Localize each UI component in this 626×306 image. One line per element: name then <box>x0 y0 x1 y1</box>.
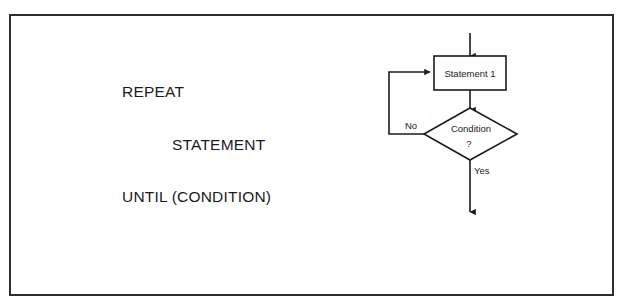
decision-label-line-1: Condition <box>451 123 491 134</box>
edge-label-yes: Yes <box>474 165 490 176</box>
process-box-label: Statement 1 <box>444 68 495 79</box>
screenshot-canvas: REPEAT STATEMENT UNTIL (CONDITION) State… <box>0 0 626 306</box>
flowchart-diagram: Statement 1 Condition ? No Yes <box>0 0 626 306</box>
decision-diamond-condition <box>424 108 517 160</box>
edge-label-no: No <box>405 120 417 131</box>
decision-label-line-2: ? <box>466 138 471 149</box>
